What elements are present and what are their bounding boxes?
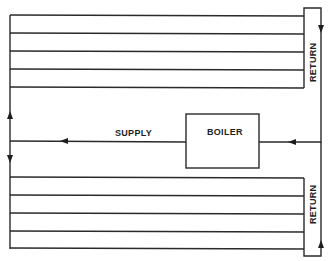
supply-line — [10, 141, 186, 142]
boiler-label: BOILER — [207, 127, 243, 137]
arrow-left-icon — [288, 139, 296, 145]
arrow-up-icon — [318, 240, 324, 248]
lower-return-label: RETURN — [308, 185, 318, 224]
arrow-down-icon — [7, 155, 13, 163]
lower-branches — [10, 177, 304, 249]
upper-return-label: RETURN — [308, 43, 318, 82]
arrow-up-icon — [7, 111, 13, 119]
arrow-left-icon — [60, 138, 68, 144]
upper-branches — [10, 15, 304, 88]
supply-label: SUPPLY — [115, 128, 152, 138]
arrow-down-icon — [318, 25, 324, 33]
boiler-box — [186, 114, 259, 168]
heating-loop-diagram: RETURN SUPPLY BOILER RETURN — [0, 0, 331, 261]
